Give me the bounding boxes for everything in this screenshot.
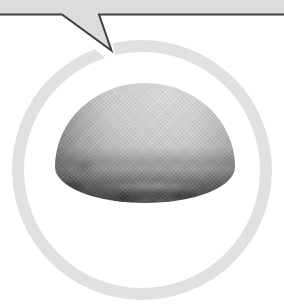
speech-bubble <box>0 0 284 64</box>
screenshot-root <box>0 0 284 308</box>
speech-bubble-body <box>0 0 284 51</box>
